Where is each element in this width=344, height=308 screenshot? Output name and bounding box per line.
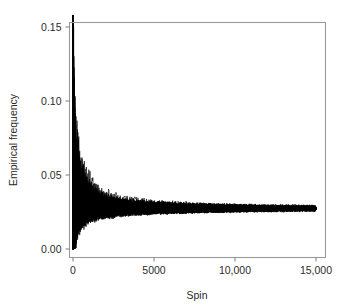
empirical-frequency-plot: 0.000.050.100.15 0500010,00015,000 Spin … [0,0,344,308]
y-axis-title: Empirical frequency [7,93,19,186]
x-tick-label: 15,000 [300,264,332,276]
y-tick-label: 0.10 [41,95,62,107]
chart-figure: 0.000.050.100.15 0500010,00015,000 Spin … [0,0,344,308]
x-tick-label: 10,000 [219,264,251,276]
plot-background [0,0,344,308]
y-tick-label: 0.05 [41,169,62,181]
y-tick-label: 0.15 [41,21,62,33]
x-tick-label: 5000 [142,264,166,276]
x-tick-label: 0 [70,264,76,276]
x-axis-title: Spin [186,289,207,301]
y-tick-label: 0.00 [41,243,62,255]
